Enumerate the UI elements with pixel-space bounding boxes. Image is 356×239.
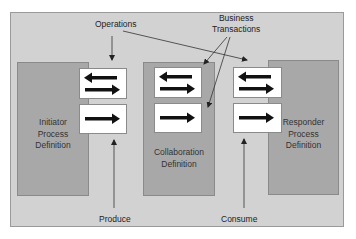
business-transactions-line2: Transactions <box>212 24 260 35</box>
arrows-layer <box>0 0 356 239</box>
business-transactions-line1: Business <box>212 13 260 24</box>
produce-label: Produce <box>99 214 131 225</box>
oneway-arrow-icon <box>85 113 274 125</box>
consume-label: Consume <box>221 214 257 225</box>
operations-label: Operations <box>95 19 137 30</box>
business-transactions-label: Business Transactions <box>212 13 260 34</box>
bidirectional-arrow-icon <box>84 72 274 96</box>
